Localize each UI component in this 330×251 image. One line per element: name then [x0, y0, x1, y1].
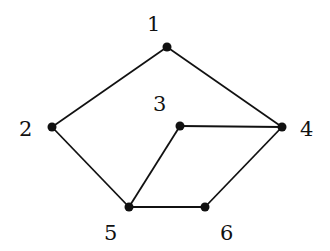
- node-1: [163, 43, 172, 52]
- node-label-4: 4: [300, 117, 313, 141]
- node-3: [176, 122, 185, 131]
- node-label-2: 2: [19, 117, 32, 141]
- node-5: [125, 203, 134, 212]
- edge-3-4: [180, 126, 282, 127]
- edge-1-4: [167, 47, 282, 127]
- graph-diagram: 123456: [0, 0, 330, 251]
- edge-4-6: [205, 127, 282, 207]
- edge-2-5: [52, 127, 129, 207]
- edge-3-5: [129, 126, 180, 207]
- node-2: [48, 123, 57, 132]
- edges: [52, 47, 282, 207]
- node-label-6: 6: [220, 221, 233, 245]
- node-label-3: 3: [153, 92, 166, 116]
- node-label-1: 1: [147, 12, 160, 36]
- edge-1-2: [52, 47, 167, 127]
- node-4: [278, 123, 287, 132]
- node-label-5: 5: [104, 221, 117, 245]
- node-6: [201, 203, 210, 212]
